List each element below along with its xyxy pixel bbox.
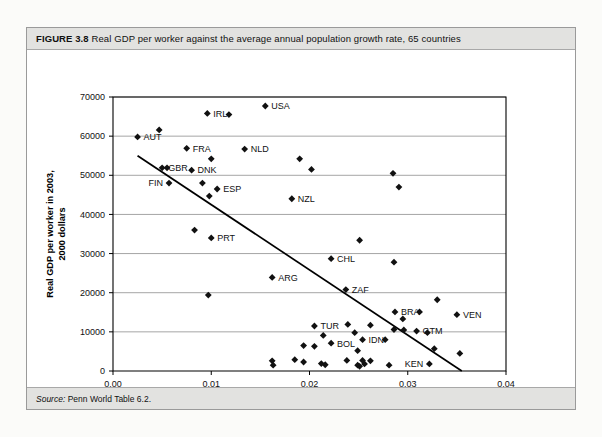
- trend-line: [138, 156, 462, 371]
- y-axis-title-line2: 2000 dollars: [57, 207, 67, 260]
- data-point-marker: [367, 322, 374, 329]
- y-tick-label: 20000: [80, 288, 105, 298]
- data-point-label: KEN: [405, 359, 424, 369]
- data-point-label: GTM: [423, 326, 443, 336]
- data-point-label: CHL: [337, 254, 355, 264]
- data-point-label: TUR: [320, 321, 339, 331]
- figure-container: FIGURE 3.8 Real GDP per worker against t…: [26, 27, 576, 410]
- data-point-marker: [241, 146, 248, 153]
- data-point-marker: [300, 359, 307, 366]
- figure-source: Source: Penn World Table 6.2.: [27, 394, 151, 404]
- data-point-marker: [392, 308, 399, 315]
- data-point-marker: [291, 356, 298, 363]
- data-point-marker: [206, 193, 213, 200]
- data-point-marker: [188, 167, 195, 174]
- data-point-marker: [308, 166, 315, 173]
- data-point-label: IDN: [369, 335, 385, 345]
- data-point-marker: [191, 227, 198, 234]
- data-point-label: AUT: [144, 132, 163, 142]
- data-point-label: BRA: [401, 307, 420, 317]
- data-point-marker: [390, 170, 397, 177]
- data-point-marker: [214, 186, 221, 193]
- data-point-marker: [134, 134, 141, 141]
- data-point-marker: [351, 329, 358, 336]
- gridlines: [113, 97, 506, 332]
- data-point-marker: [344, 321, 351, 328]
- y-tick-label: 70000: [80, 92, 105, 102]
- data-point-marker: [328, 255, 335, 262]
- data-point-label: FRA: [193, 144, 211, 154]
- y-tick-label: 40000: [80, 210, 105, 220]
- data-point-label: GBR: [168, 163, 188, 173]
- figure-caption: FIGURE 3.8 Real GDP per worker against t…: [27, 33, 461, 44]
- y-tick-label: 0: [100, 366, 105, 376]
- axis-frame: [113, 97, 506, 371]
- figure-source-bar: Source: Penn World Table 6.2.: [27, 387, 575, 409]
- data-point-label: ZAF: [352, 285, 370, 295]
- data-point-marker: [208, 155, 215, 162]
- figure-number: FIGURE 3.8: [36, 33, 89, 44]
- data-point-marker: [356, 237, 363, 244]
- data-point-marker: [359, 336, 366, 343]
- data-point-marker: [391, 259, 398, 266]
- data-point-marker: [367, 357, 374, 364]
- chart-area: 010000200003000040000500006000070000 0.0…: [27, 50, 575, 389]
- y-tick-label: 60000: [80, 131, 105, 141]
- figure-caption-bar: FIGURE 3.8 Real GDP per worker against t…: [27, 28, 575, 50]
- data-point-label: PRT: [217, 233, 235, 243]
- data-point-marker: [269, 274, 276, 281]
- data-point-marker: [456, 350, 463, 357]
- data-point-label: NLD: [251, 144, 270, 154]
- data-point-marker: [328, 340, 335, 347]
- data-point-label: NZL: [298, 194, 315, 204]
- data-point-marker: [396, 184, 403, 191]
- data-point-marker: [300, 342, 307, 349]
- data-point-marker: [288, 195, 295, 202]
- source-prefix: Source:: [36, 394, 65, 404]
- source-value: Penn World Table 6.2.: [68, 394, 151, 404]
- data-point-label: BOL: [337, 339, 355, 349]
- scatter-plot: 010000200003000040000500006000070000 0.0…: [27, 50, 575, 389]
- data-point-label: USA: [271, 101, 290, 111]
- data-point-marker: [434, 296, 441, 303]
- data-points: [134, 103, 463, 370]
- data-point-marker: [296, 155, 303, 162]
- data-point-label: IRL: [213, 109, 227, 119]
- data-point-marker: [208, 235, 215, 242]
- data-point-marker: [166, 180, 173, 187]
- data-point-marker: [320, 332, 327, 339]
- figure-caption-text: Real GDP per worker against the average …: [92, 33, 461, 44]
- data-point-marker: [386, 362, 393, 369]
- y-axis-ticks: 010000200003000040000500006000070000: [80, 92, 113, 376]
- data-point-marker: [311, 323, 318, 330]
- data-point-labels: AUTIRLUSAFRANLDGBRDNKFINESPNZLPRTCHLARGZ…: [144, 101, 482, 369]
- data-point-label: ARG: [278, 273, 298, 283]
- data-point-label: FIN: [149, 178, 164, 188]
- data-point-marker: [400, 327, 407, 334]
- data-point-marker: [354, 347, 361, 354]
- data-point-label: VEN: [463, 310, 482, 320]
- data-point-marker: [343, 357, 350, 364]
- data-point-label: DNK: [198, 165, 217, 175]
- data-point-marker: [453, 311, 460, 318]
- y-tick-label: 30000: [80, 249, 105, 259]
- data-point-label: ESP: [223, 184, 241, 194]
- y-axis-title-line1: Real GDP per worker in 2003,: [45, 170, 55, 298]
- y-tick-label: 50000: [80, 170, 105, 180]
- data-point-marker: [413, 328, 420, 335]
- data-point-marker: [311, 343, 318, 350]
- data-point-marker: [199, 180, 206, 187]
- data-point-marker: [183, 145, 190, 152]
- y-tick-label: 10000: [80, 327, 105, 337]
- data-point-marker: [204, 110, 211, 117]
- data-point-marker: [262, 103, 269, 110]
- data-point-marker: [426, 361, 433, 368]
